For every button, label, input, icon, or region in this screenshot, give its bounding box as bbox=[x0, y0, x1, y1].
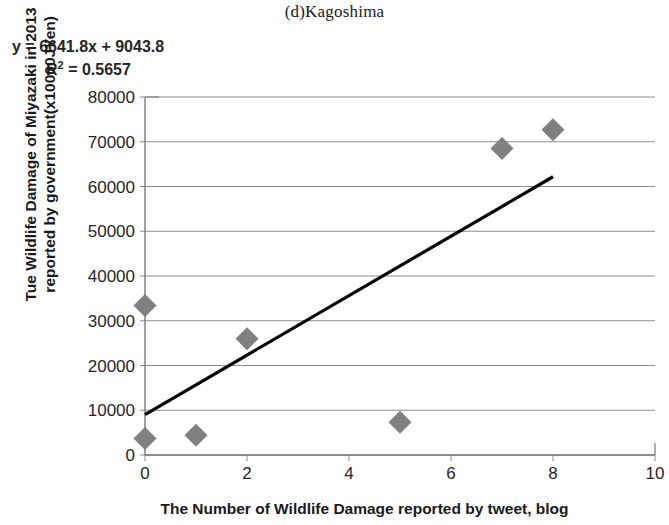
gridlines bbox=[145, 97, 655, 455]
x-tick-label: 8 bbox=[548, 464, 557, 483]
data-point-marker bbox=[491, 137, 513, 159]
y-tick-label: 60000 bbox=[88, 178, 135, 197]
y-tick-label: 0 bbox=[126, 446, 135, 465]
plot-area: 0100002000030000400005000060000700008000… bbox=[0, 0, 669, 525]
y-tick-label: 20000 bbox=[88, 357, 135, 376]
x-tick-label: 2 bbox=[242, 464, 251, 483]
y-tick-label: 80000 bbox=[88, 88, 135, 107]
data-point-marker bbox=[389, 411, 411, 433]
y-tick-label: 30000 bbox=[88, 312, 135, 331]
x-tick-label: 6 bbox=[446, 464, 455, 483]
data-point-marker bbox=[134, 295, 156, 317]
trendline bbox=[145, 177, 553, 415]
y-tick-label: 40000 bbox=[88, 267, 135, 286]
x-tick-label: 0 bbox=[140, 464, 149, 483]
trendline-segment bbox=[145, 177, 553, 415]
x-tick-label: 10 bbox=[646, 464, 665, 483]
x-axis-title: The Number of Wildlife Damage reported b… bbox=[0, 500, 669, 518]
chart-figure: (d)Kagoshima y = 6641.8x + 9043.8 R2 = 0… bbox=[0, 0, 669, 525]
x-axis-ticks: 0246810 bbox=[140, 455, 664, 483]
data-point-marker bbox=[542, 119, 564, 141]
x-tick-label: 4 bbox=[344, 464, 353, 483]
y-axis-ticks: 0100002000030000400005000060000700008000… bbox=[88, 88, 145, 465]
y-tick-label: 10000 bbox=[88, 401, 135, 420]
data-point-marker bbox=[236, 328, 258, 350]
y-tick-label: 50000 bbox=[88, 222, 135, 241]
data-point-marker bbox=[185, 424, 207, 446]
data-point-marker bbox=[134, 427, 156, 449]
data-points bbox=[134, 119, 564, 450]
y-tick-label: 70000 bbox=[88, 133, 135, 152]
